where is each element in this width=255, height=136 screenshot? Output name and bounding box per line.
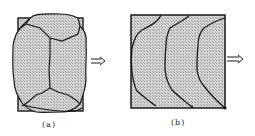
figure-canvas [0,0,255,136]
arrow-right-icon [91,57,105,65]
panel-a [13,14,105,113]
caption-b: (b) [171,118,185,127]
panel-b [131,15,243,110]
arrow-right-icon [227,55,243,63]
caption-a: (a) [42,120,56,129]
